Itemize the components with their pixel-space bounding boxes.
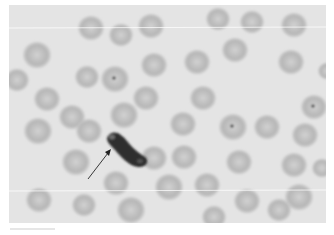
- red-blood-cell: [292, 123, 318, 148]
- red-blood-cell: [240, 11, 264, 34]
- red-blood-cell: [254, 115, 280, 140]
- red-blood-cell: [23, 42, 51, 69]
- red-blood-cell: [110, 102, 138, 129]
- red-blood-cell: [117, 197, 145, 223]
- red-blood-cell: [170, 112, 196, 137]
- red-blood-cell: [267, 199, 291, 222]
- red-blood-cell: [76, 119, 102, 144]
- red-blood-cell: [141, 53, 167, 78]
- red-blood-cell: [138, 14, 164, 39]
- red-blood-cell: [184, 50, 210, 75]
- red-blood-cell: [190, 86, 216, 111]
- red-blood-cell: [72, 194, 96, 217]
- faint-caption: [10, 226, 55, 232]
- red-blood-cell: [103, 171, 129, 196]
- red-blood-cell: [281, 153, 307, 178]
- red-blood-cell: [155, 174, 183, 201]
- red-blood-cell: [133, 86, 159, 111]
- blood-smear-micrograph: [9, 5, 326, 223]
- red-blood-cell: [62, 149, 90, 176]
- red-blood-cell: [278, 50, 304, 75]
- red-blood-cell: [281, 13, 307, 38]
- red-blood-cell: [171, 145, 197, 170]
- red-blood-cell: [26, 188, 52, 213]
- red-blood-cell: [194, 173, 220, 198]
- red-blood-cell: [75, 66, 99, 89]
- red-blood-cell: [24, 118, 52, 145]
- red-blood-cell: [222, 38, 248, 63]
- red-blood-cell: [34, 87, 60, 112]
- parasite-dot: [311, 104, 314, 107]
- red-blood-cell: [226, 150, 252, 175]
- micrograph-canvas: [9, 5, 326, 223]
- parasite-dot: [112, 76, 115, 79]
- red-blood-cell: [109, 24, 133, 47]
- red-blood-cell: [234, 189, 260, 214]
- parasite-dot: [230, 124, 233, 127]
